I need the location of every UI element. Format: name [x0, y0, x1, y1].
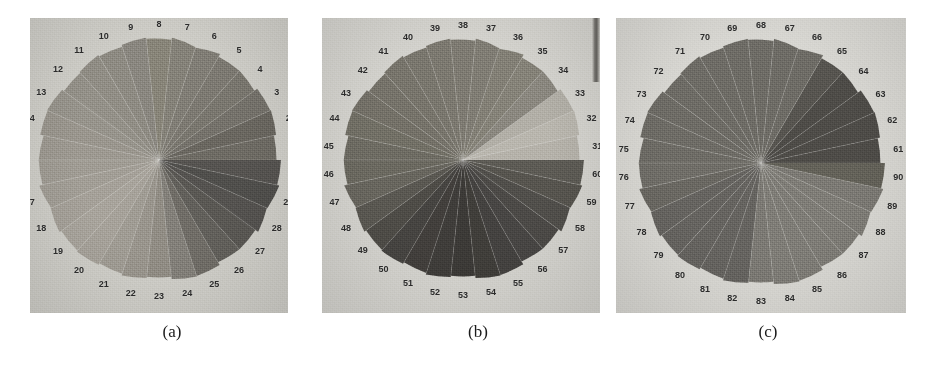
sector-label-36: 36 — [513, 32, 523, 41]
sector-label-89: 89 — [887, 201, 897, 210]
sector-label-9: 9 — [128, 23, 133, 32]
panel-b: 3132333435363738394041424344454647484950… — [322, 18, 600, 313]
sector-label-56: 56 — [537, 265, 547, 274]
panel-a: 1234567891011121314151617181920212223242… — [30, 18, 288, 313]
sector-label-47: 47 — [330, 197, 340, 206]
sector-label-54: 54 — [486, 288, 496, 297]
sector-label-45: 45 — [324, 141, 334, 150]
panel-b-sector-labels: 3132333435363738394041424344454647484950… — [322, 18, 600, 313]
sector-label-28: 28 — [272, 224, 282, 233]
sector-label-87: 87 — [859, 251, 869, 260]
sector-label-76: 76 — [619, 173, 629, 182]
sector-label-11: 11 — [74, 46, 84, 55]
sector-label-79: 79 — [653, 251, 663, 260]
sector-label-13: 13 — [36, 88, 46, 97]
sector-label-41: 41 — [379, 46, 389, 55]
sector-label-25: 25 — [209, 280, 219, 289]
sector-label-14: 14 — [30, 114, 35, 123]
sector-label-86: 86 — [837, 270, 847, 279]
sector-label-85: 85 — [812, 285, 822, 294]
sector-label-78: 78 — [636, 228, 646, 237]
sector-label-55: 55 — [513, 279, 523, 288]
caption-c: (c) — [759, 322, 778, 342]
sector-label-71: 71 — [675, 47, 685, 56]
sector-label-38: 38 — [458, 21, 468, 30]
sector-label-37: 37 — [486, 24, 496, 33]
sector-label-20: 20 — [74, 266, 84, 275]
sector-label-77: 77 — [625, 201, 635, 210]
sector-label-61: 61 — [893, 144, 903, 153]
sector-label-73: 73 — [636, 90, 646, 99]
sector-label-84: 84 — [785, 294, 795, 303]
sector-label-48: 48 — [341, 223, 351, 232]
panel-a-sector-labels: 1234567891011121314151617181920212223242… — [30, 18, 288, 313]
sector-label-52: 52 — [430, 288, 440, 297]
sector-label-80: 80 — [675, 270, 685, 279]
sector-label-65: 65 — [837, 47, 847, 56]
sector-label-17: 17 — [30, 198, 35, 207]
sector-label-2: 2 — [286, 114, 288, 123]
sector-label-3: 3 — [274, 88, 279, 97]
sector-label-59: 59 — [586, 197, 596, 206]
sector-label-19: 19 — [53, 247, 63, 256]
sector-label-39: 39 — [430, 24, 440, 33]
sector-label-5: 5 — [236, 46, 241, 55]
sector-label-21: 21 — [99, 280, 109, 289]
sector-label-24: 24 — [182, 289, 192, 298]
sector-label-40: 40 — [403, 32, 413, 41]
sector-label-12: 12 — [53, 65, 63, 74]
sector-label-42: 42 — [358, 65, 368, 74]
sector-label-23: 23 — [154, 292, 164, 301]
sector-label-8: 8 — [156, 20, 161, 29]
sector-label-4: 4 — [258, 65, 263, 74]
sector-label-51: 51 — [403, 279, 413, 288]
figure-container: 1234567891011121314151617181920212223242… — [0, 0, 935, 374]
sector-label-81: 81 — [700, 285, 710, 294]
sector-label-32: 32 — [586, 114, 596, 123]
sector-label-58: 58 — [575, 223, 585, 232]
sector-label-46: 46 — [324, 170, 334, 179]
sector-label-64: 64 — [859, 66, 869, 75]
sector-label-67: 67 — [785, 24, 795, 33]
sector-label-27: 27 — [255, 247, 265, 256]
sector-label-72: 72 — [653, 66, 663, 75]
sector-label-31: 31 — [592, 141, 600, 150]
sector-label-74: 74 — [625, 116, 635, 125]
caption-b: (b) — [468, 322, 488, 342]
sector-label-68: 68 — [756, 21, 766, 30]
sector-label-18: 18 — [36, 224, 46, 233]
sector-label-82: 82 — [727, 294, 737, 303]
sector-label-60: 60 — [592, 170, 600, 179]
sector-label-35: 35 — [537, 46, 547, 55]
sector-label-7: 7 — [185, 23, 190, 32]
sector-label-33: 33 — [575, 88, 585, 97]
sector-label-57: 57 — [558, 246, 568, 255]
sector-label-26: 26 — [234, 266, 244, 275]
sector-label-44: 44 — [330, 114, 340, 123]
sector-label-70: 70 — [700, 32, 710, 41]
sector-label-49: 49 — [358, 246, 368, 255]
sector-label-62: 62 — [887, 116, 897, 125]
sector-label-75: 75 — [619, 144, 629, 153]
sector-label-90: 90 — [893, 173, 903, 182]
sector-label-53: 53 — [458, 291, 468, 300]
sector-label-34: 34 — [558, 65, 568, 74]
sector-label-43: 43 — [341, 88, 351, 97]
panel-c: 6162636465666768697071727374757677787980… — [616, 18, 906, 313]
sector-label-66: 66 — [812, 32, 822, 41]
sector-label-10: 10 — [99, 31, 109, 40]
sector-label-69: 69 — [727, 24, 737, 33]
sector-label-63: 63 — [875, 90, 885, 99]
sector-label-6: 6 — [212, 31, 217, 40]
sector-label-29: 29 — [283, 198, 288, 207]
caption-a: (a) — [163, 322, 182, 342]
sector-label-50: 50 — [379, 265, 389, 274]
sector-label-83: 83 — [756, 297, 766, 306]
sector-label-88: 88 — [875, 228, 885, 237]
panel-c-sector-labels: 6162636465666768697071727374757677787980… — [616, 18, 906, 313]
sector-label-22: 22 — [126, 289, 136, 298]
